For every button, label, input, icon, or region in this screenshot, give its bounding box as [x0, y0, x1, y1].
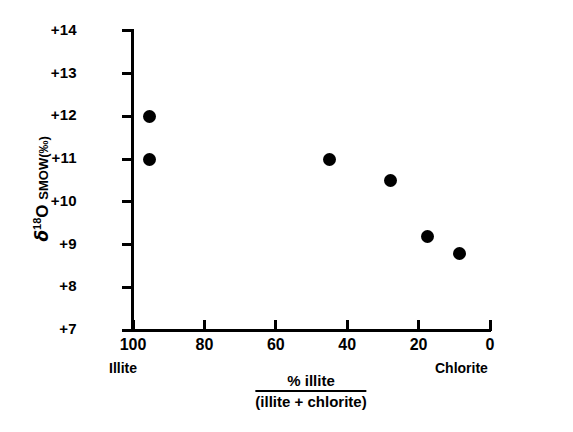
x-tick	[132, 320, 135, 331]
x-axis-line	[131, 329, 491, 332]
data-point	[143, 110, 156, 123]
x-axis-title-numerator: % illite	[255, 372, 366, 390]
x-tick-label: 40	[338, 336, 356, 354]
data-point	[453, 247, 466, 260]
x-axis-title: % illite (illite + chlorite)	[255, 372, 366, 411]
y-tick	[122, 243, 131, 246]
permil-units: (‰)	[36, 136, 51, 158]
x-axis-end-label: Chlorite	[435, 360, 488, 376]
x-tick-label: 60	[267, 336, 285, 354]
oxygen-isotope-scatter-figure: +7+8+9+10+11+12+13+14 100806040200 Illit…	[0, 0, 573, 432]
delta-symbol: δ	[32, 230, 52, 242]
y-tick-label: +7	[0, 320, 77, 337]
x-tick-label: 20	[410, 336, 428, 354]
y-tick	[122, 29, 133, 32]
x-axis-title-denominator: (illite + chlorite)	[255, 390, 366, 410]
data-point	[421, 230, 434, 243]
x-tick-label: 0	[486, 336, 495, 354]
y-tick	[122, 158, 131, 161]
x-tick	[489, 320, 492, 331]
y-tick	[122, 329, 131, 332]
y-tick	[122, 72, 131, 75]
x-tick	[417, 320, 420, 329]
x-tick	[346, 320, 349, 329]
x-tick	[203, 320, 206, 329]
x-tick-label: 80	[195, 336, 213, 354]
data-point	[143, 153, 156, 166]
y-axis-title: δ18O SMOW(‰)	[31, 69, 53, 309]
smow-label: SMOW	[36, 158, 51, 200]
delta-superscript: 18	[31, 218, 43, 230]
data-point	[323, 153, 336, 166]
y-axis-line	[131, 29, 134, 332]
y-tick	[122, 286, 131, 289]
plot-area: +7+8+9+10+11+12+13+14 100806040200 Illit…	[0, 0, 573, 432]
oxygen-symbol: O	[33, 204, 52, 217]
x-tick	[274, 320, 277, 329]
data-point	[384, 174, 397, 187]
y-tick	[122, 200, 131, 203]
x-axis-end-label: Illite	[109, 360, 137, 376]
y-tick-label: +14	[0, 21, 77, 38]
x-tick-label: 100	[120, 336, 147, 354]
y-tick	[122, 115, 131, 118]
